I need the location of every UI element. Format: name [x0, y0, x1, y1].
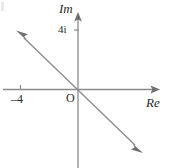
imaginary-tick-label-4i: 4i: [58, 24, 67, 35]
origin-label: O: [66, 92, 75, 104]
real-axis-label: Re: [146, 96, 160, 109]
line-through-origin-segment: [24, 38, 135, 145]
diagram-canvas: [0, 0, 171, 168]
real-tick-label-minus4: –4: [11, 93, 23, 105]
argand-diagram-figure: Im Re 4i –4 O: [0, 0, 171, 168]
real-axis: [3, 85, 160, 93]
line-arrowhead-lower-right-icon: [131, 144, 143, 153]
line-through-origin: [16, 31, 143, 154]
imaginary-axis-label: Im: [59, 2, 73, 15]
line-arrowhead-upper-left-icon: [16, 31, 28, 40]
